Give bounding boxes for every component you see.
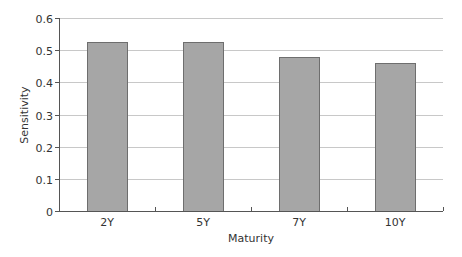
x-axis-title: Maturity — [228, 232, 274, 245]
y-tick-label: 0.5 — [36, 45, 54, 58]
x-tick-label: 7Y — [292, 216, 306, 229]
x-tick-label: 2Y — [100, 216, 114, 229]
bars — [88, 43, 416, 212]
y-tick-label: 0.6 — [36, 13, 54, 26]
bar-5y — [184, 43, 224, 212]
y-tick-label: 0.4 — [36, 77, 54, 90]
bar-7y — [280, 58, 320, 212]
x-tick-label: 5Y — [196, 216, 210, 229]
y-axis-title: Sensitivity — [18, 86, 31, 144]
y-tick-label: 0 — [46, 206, 53, 219]
y-tick-label: 0.1 — [36, 174, 54, 187]
y-axis-ticks: 00.10.20.30.40.50.6 — [36, 13, 60, 219]
y-tick-label: 0.3 — [36, 110, 54, 123]
x-tick-label: 10Y — [385, 216, 406, 229]
y-tick-label: 0.2 — [36, 142, 54, 155]
bar-chart: 00.10.20.30.40.50.6 2Y5Y7Y10Y Maturity S… — [0, 0, 462, 257]
bar-10y — [376, 64, 416, 212]
bar-2y — [88, 43, 128, 212]
